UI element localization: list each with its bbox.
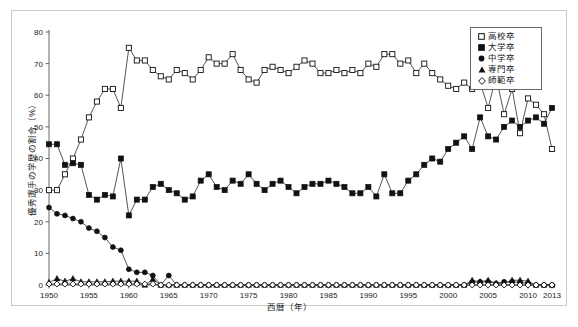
x-tick-label: 2013 bbox=[543, 291, 561, 300]
legend-label-0: 高校卒 bbox=[488, 31, 515, 42]
legend-label-3: 専門卒 bbox=[488, 64, 515, 75]
x-tick-label: 2005 bbox=[479, 291, 497, 300]
legend-item-koukou: 高校卒 bbox=[475, 31, 538, 42]
legend-label-2: 中学卒 bbox=[488, 53, 515, 64]
y-axis-label: 優秀選手の学歴の割合（%） bbox=[25, 63, 37, 253]
x-tick-label: 2010 bbox=[519, 291, 537, 300]
x-axis-label: 西暦（年） bbox=[0, 300, 578, 312]
x-tick-label: 1975 bbox=[240, 291, 258, 300]
x-tick-label: 1995 bbox=[399, 291, 417, 300]
x-tick-label: 1950 bbox=[40, 291, 58, 300]
x-tick-label: 1990 bbox=[359, 291, 377, 300]
x-tick-label: 1980 bbox=[280, 291, 298, 300]
open-square-icon bbox=[475, 33, 488, 40]
y-tick-label: 80 bbox=[34, 28, 43, 37]
x-tick-label: 1970 bbox=[200, 291, 218, 300]
legend-label-4: 師範卒 bbox=[488, 75, 515, 86]
series-2 bbox=[47, 205, 555, 287]
legend-item-chugaku: 中学卒 bbox=[475, 53, 538, 64]
legend-item-senmon: 専門卒 bbox=[475, 64, 538, 75]
legend-item-daigaku: 大学卒 bbox=[475, 42, 538, 53]
open-diamond-icon bbox=[475, 77, 488, 85]
chart-figure: 0102030405060708019501955196019651970197… bbox=[0, 0, 578, 327]
x-tick-label: 2000 bbox=[439, 291, 457, 300]
x-tick-label: 1955 bbox=[80, 291, 98, 300]
legend-item-shihan: 師範卒 bbox=[475, 75, 538, 86]
x-tick-label: 1985 bbox=[320, 291, 338, 300]
chart-legend: 高校卒 大学卒 中学卒 専門卒 師範卒 bbox=[470, 27, 542, 90]
filled-triangle-icon bbox=[475, 66, 488, 73]
filled-circle-icon bbox=[475, 55, 488, 62]
x-tick-label: 1960 bbox=[120, 291, 138, 300]
y-tick-label: 0 bbox=[39, 281, 44, 290]
filled-square-icon bbox=[475, 44, 488, 51]
legend-label-1: 大学卒 bbox=[488, 42, 515, 53]
series-1 bbox=[46, 105, 554, 218]
x-tick-label: 1965 bbox=[160, 291, 178, 300]
